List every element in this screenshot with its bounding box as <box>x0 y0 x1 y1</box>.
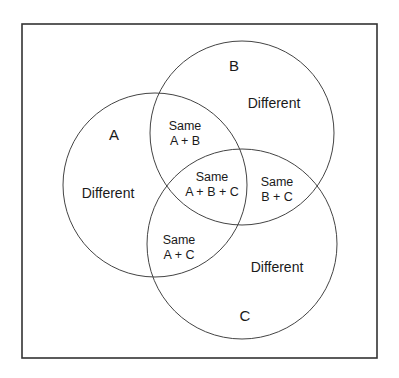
region-ab-line2: A + B <box>170 134 200 148</box>
set-label-c: C <box>240 307 251 324</box>
region-ac-line2: A + C <box>164 248 195 262</box>
region-abc-line2: A + B + C <box>185 185 239 199</box>
region-b-only: Different <box>248 95 301 111</box>
venn-diagram: B A C Different Different Different Same… <box>0 0 399 378</box>
set-label-b: B <box>229 57 239 74</box>
region-abc-line1: Same <box>196 170 229 184</box>
region-c-only: Different <box>251 259 304 275</box>
set-label-a: A <box>109 126 119 143</box>
region-bc-line2: B + C <box>261 190 293 204</box>
region-a-only: Different <box>82 185 135 201</box>
region-bc-line1: Same <box>261 175 294 189</box>
region-ab-line1: Same <box>169 119 202 133</box>
region-ac-line1: Same <box>163 233 196 247</box>
